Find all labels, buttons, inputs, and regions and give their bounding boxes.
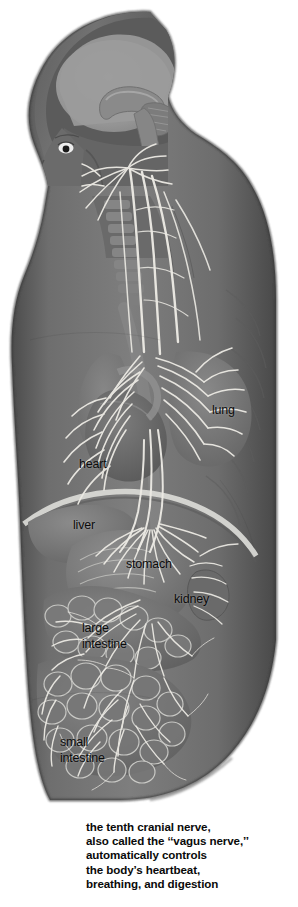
anatomy-illustration-svg (0, 0, 298, 907)
caption-line-5: breathing, and digestion (86, 877, 292, 891)
label-large-intestine: large intestine (82, 620, 127, 653)
label-small-intestine-line2: intestine (60, 750, 105, 766)
label-large-intestine-line1: large (82, 620, 127, 636)
label-heart: heart (79, 457, 107, 473)
caption-line-4: the body’s heartbeat, (86, 863, 292, 877)
label-large-intestine-line2: intestine (82, 636, 127, 652)
figure-caption: the tenth cranial nerve, also called the… (86, 820, 292, 891)
caption-line-2: also called the ‘‘vagus nerve,’’ (86, 834, 292, 848)
pupil (63, 146, 70, 153)
label-small-intestine-line1: small (60, 734, 105, 750)
anatomy-figure (0, 0, 298, 907)
label-liver: liver (73, 518, 95, 534)
caption-line-3: automatically controls (86, 848, 292, 862)
caption-line-1: the tenth cranial nerve, (86, 820, 292, 834)
label-lung: lung (212, 403, 235, 419)
label-kidney: kidney (174, 592, 209, 608)
label-small-intestine: small intestine (60, 734, 105, 767)
label-stomach: stomach (126, 557, 172, 573)
